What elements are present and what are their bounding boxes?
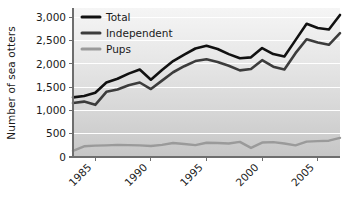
legend-label-total: Total — [105, 11, 131, 23]
legend-label-pups: Pups — [106, 43, 131, 55]
x-tick-label: 1990 — [122, 161, 149, 188]
y-tick-label: 500 — [46, 127, 66, 139]
y-tick-label: 2,000 — [36, 58, 66, 70]
x-tick-label: 2000 — [233, 161, 260, 188]
y-tick-label: 3,000 — [36, 11, 66, 23]
chart-figure: Number of sea otters 05001,0001 — [0, 0, 349, 199]
y-axis-title: Number of sea otters — [0, 0, 22, 165]
y-tick-label: 0 — [59, 151, 66, 163]
x-axis-ticks: 19851990199520002005 — [66, 157, 317, 188]
y-axis-ticks: 05001,0001,5002,0002,5003,000 — [36, 11, 73, 163]
y-tick-label: 2,500 — [36, 34, 66, 46]
x-tick-label: 1985 — [66, 161, 93, 188]
plot-container: 05001,0001,5002,0002,5003,000 1985199019… — [22, 0, 349, 199]
legend-label-independent: Independent — [106, 27, 173, 39]
x-tick-label: 1995 — [178, 161, 205, 188]
line-chart-svg: 05001,0001,5002,0002,5003,000 1985199019… — [22, 0, 349, 199]
y-tick-label: 1,000 — [36, 104, 66, 116]
y-tick-label: 1,500 — [36, 81, 66, 93]
x-tick-label: 2005 — [289, 161, 316, 188]
y-axis-title-text: Number of sea otters — [5, 26, 17, 140]
